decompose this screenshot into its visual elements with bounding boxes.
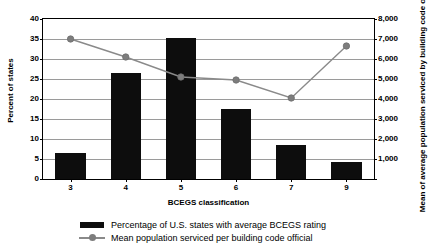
bar	[111, 73, 141, 179]
x-tick-label: 6	[234, 184, 238, 192]
x-tick-label: 3	[68, 184, 72, 192]
tick-mark	[374, 139, 377, 140]
left-tick-label: 5	[35, 155, 39, 163]
tick-mark	[374, 159, 377, 160]
tick-mark	[40, 19, 43, 20]
line-marker	[233, 77, 239, 83]
tick-mark	[40, 119, 43, 120]
right-tick-label: 4,000	[378, 95, 398, 103]
left-tick-label: 10	[30, 135, 39, 143]
x-tick-label: 9	[344, 184, 348, 192]
line-marker	[288, 95, 294, 101]
tick-mark	[40, 39, 43, 40]
tick-mark	[40, 139, 43, 140]
bar	[221, 109, 251, 179]
tick-mark	[374, 99, 377, 100]
right-tick-label: 7,000	[378, 35, 398, 43]
right-axis-title-text: Mean of average population serviced by b…	[418, 0, 428, 212]
chart-figure: Percent of states Mean of average popula…	[0, 0, 441, 250]
legend-item-label: Mean population serviced per building co…	[111, 233, 312, 244]
right-tick-label: 1,000	[378, 155, 398, 163]
gridline	[43, 39, 374, 40]
x-tick-label: 7	[289, 184, 293, 192]
left-tick-label: 30	[30, 55, 39, 63]
left-tick-label: 15	[30, 115, 39, 123]
tick-mark	[126, 179, 127, 182]
left-tick-label: 35	[30, 35, 39, 43]
bar	[166, 38, 196, 179]
bar	[331, 162, 361, 179]
legend-line-marker-icon	[79, 232, 105, 244]
tick-mark	[374, 179, 377, 180]
tick-mark	[40, 159, 43, 160]
right-tick-label: 3,000	[378, 115, 398, 123]
bar	[276, 145, 306, 179]
legend-item-line: Mean population serviced per building co…	[79, 232, 379, 244]
tick-mark	[291, 179, 292, 182]
bar	[55, 153, 85, 179]
x-tick-label: 5	[179, 184, 183, 192]
right-axis-title: Mean of average population serviced by b…	[408, 0, 438, 190]
legend-bar-swatch-icon	[79, 219, 105, 231]
gridline	[43, 99, 374, 100]
gridline	[43, 119, 374, 120]
tick-mark	[374, 59, 377, 60]
right-tick-label: 2,000	[378, 135, 398, 143]
right-tick-label: 5,000	[378, 75, 398, 83]
tick-mark	[374, 39, 377, 40]
x-tick-label: 4	[124, 184, 128, 192]
legend-item-bars: Percentage of U.S. states with average B…	[79, 219, 379, 231]
tick-mark	[71, 179, 72, 182]
gridline	[43, 79, 374, 80]
tick-mark	[374, 19, 377, 20]
gridline	[43, 139, 374, 140]
tick-mark	[40, 59, 43, 60]
plot-area: 0510152025303540 1,0002,0003,0004,0005,0…	[42, 18, 375, 180]
left-tick-label: 40	[30, 15, 39, 23]
left-tick-label: 20	[30, 95, 39, 103]
tick-mark	[374, 79, 377, 80]
left-tick-label: 0	[35, 175, 39, 183]
left-axis-title: Percent of states	[3, 0, 17, 180]
tick-mark	[40, 99, 43, 100]
left-tick-label: 25	[30, 75, 39, 83]
chart-legend: Percentage of U.S. states with average B…	[79, 219, 379, 245]
gridline	[43, 159, 374, 160]
gridline	[43, 59, 374, 60]
line-marker	[343, 43, 349, 49]
x-axis-title: BCEGS classification	[42, 198, 375, 207]
legend-item-label: Percentage of U.S. states with average B…	[111, 220, 326, 231]
tick-mark	[40, 79, 43, 80]
right-tick-label: 6,000	[378, 55, 398, 63]
tick-mark	[374, 119, 377, 120]
tick-mark	[346, 179, 347, 182]
tick-mark	[181, 179, 182, 182]
left-axis-title-text: Percent of states	[6, 58, 15, 122]
tick-mark	[236, 179, 237, 182]
right-tick-label: 8,000	[378, 15, 398, 23]
tick-mark	[40, 179, 43, 180]
